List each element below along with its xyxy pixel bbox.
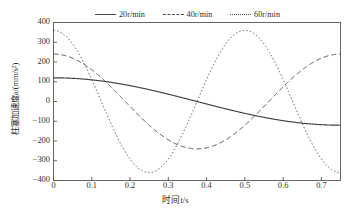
y-axis-title: 柱塞加速度a/(mm/s²) [8, 24, 20, 174]
x-tick-label: 0.5 [230, 181, 260, 190]
x-tick-label: 0.2 [115, 181, 145, 190]
x-axis-title: 时间t/s [0, 193, 351, 205]
x-tick-label: 0.1 [77, 181, 107, 190]
x-tick-label: 0.7 [306, 181, 336, 190]
x-tick-label: 0.4 [192, 181, 222, 190]
y-tick-label: 200 [20, 58, 50, 66]
x-tick-label: 0 [39, 181, 69, 190]
y-tick-label: −200 [20, 137, 50, 145]
y-tick-label: 0 [20, 97, 50, 105]
y-tick-label: 300 [20, 38, 50, 46]
chart-figure: 20r/min 40r/min 60r/min 4003002001000−10… [0, 0, 351, 219]
y-tick-label: 400 [20, 18, 50, 26]
y-tick-label: 100 [20, 77, 50, 85]
y-tick-label: −100 [20, 117, 50, 125]
series-line-20rmin [54, 78, 341, 125]
x-tick-label: 0.3 [153, 181, 183, 190]
x-tick-label: 0.6 [268, 181, 298, 190]
y-tick-label: −300 [20, 156, 50, 164]
